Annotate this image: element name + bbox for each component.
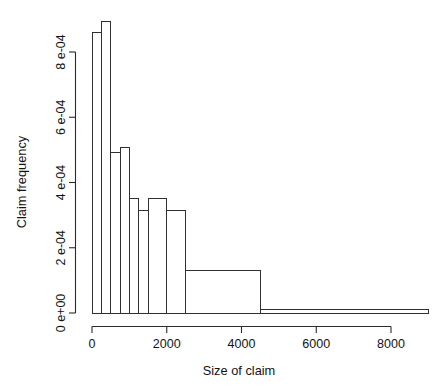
histogram-bar	[260, 309, 428, 313]
histogram-bar	[92, 33, 101, 313]
y-axis-tick-label: 8 e-04	[54, 34, 68, 69]
histogram-bar	[120, 148, 129, 313]
histogram-bar	[111, 153, 120, 313]
histogram-bar	[148, 199, 167, 313]
y-axis-title: Claim frequency	[14, 135, 29, 228]
y-axis-tick-label: 4 e-04	[54, 165, 68, 200]
x-axis-tick-label: 0	[89, 337, 96, 351]
x-axis-title: Size of claim	[203, 363, 276, 378]
x-axis-tick-label: 6000	[302, 337, 330, 351]
x-axis-tick-label: 8000	[377, 337, 405, 351]
y-axis-tick-label: 6 e-04	[54, 99, 68, 134]
histogram-bar	[129, 199, 138, 313]
y-axis-tick-label: 2 e-04	[54, 230, 68, 265]
x-axis-tick-label: 2000	[153, 337, 181, 351]
histogram-bar	[167, 211, 186, 313]
histogram-bar	[101, 22, 110, 313]
histogram-bar	[139, 211, 148, 313]
y-axis-tick-label: 0 e+00	[54, 294, 68, 333]
x-axis-tick-label: 4000	[228, 337, 256, 351]
histogram-bar	[185, 271, 260, 313]
chart-figure: 0 e+002 e-044 e-046 e-048 e-04 020004000…	[0, 0, 441, 392]
histogram-plot: 0 e+002 e-044 e-046 e-048 e-04 020004000…	[0, 0, 441, 392]
